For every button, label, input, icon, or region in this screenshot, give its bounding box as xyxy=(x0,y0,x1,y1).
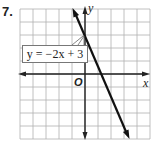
x-axis-left-arrow-icon xyxy=(18,72,26,77)
y-axis xyxy=(83,6,88,140)
x-axis xyxy=(18,72,150,77)
line-top-arrow-icon xyxy=(73,8,80,18)
y-axis-label: y xyxy=(88,1,93,16)
y-axis-up-arrow-icon xyxy=(83,6,88,14)
label-leader-lines xyxy=(72,36,84,45)
origin-label: O xyxy=(74,76,83,88)
coordinate-plane xyxy=(0,0,154,148)
equation-label: y = −2x + 3 xyxy=(22,45,88,63)
x-axis-label: x xyxy=(143,76,148,91)
